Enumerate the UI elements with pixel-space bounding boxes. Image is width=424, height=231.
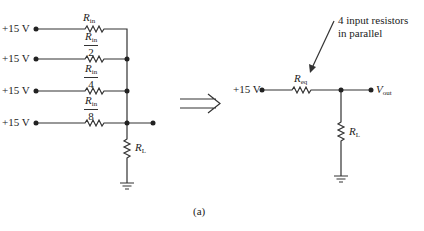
load-label-right: RL bbox=[349, 126, 360, 139]
annotation-text: 4 input resistorsin parallel bbox=[338, 14, 408, 40]
resistor-label-rin-over-4: Rin4 bbox=[84, 63, 98, 90]
load-resistor-left bbox=[124, 123, 130, 183]
ground-right bbox=[334, 176, 348, 182]
wire-1 bbox=[36, 26, 127, 123]
wire-right bbox=[262, 87, 371, 93]
annotation-arrowhead bbox=[309, 64, 316, 73]
resistor-label-rin-over-2: Rin2 bbox=[84, 31, 98, 58]
resistor-label-rin: Rin bbox=[83, 12, 95, 25]
source-label-right: +15 V bbox=[233, 84, 261, 95]
wire-2 bbox=[36, 56, 127, 62]
load-resistor-right bbox=[338, 90, 344, 176]
source-label-2: +15 V bbox=[2, 53, 30, 64]
source-label-1: +15 V bbox=[2, 23, 30, 34]
transform-arrow bbox=[180, 94, 220, 113]
resistor-label-rin-over-8: Rin8 bbox=[84, 95, 98, 122]
ground-left bbox=[120, 183, 134, 189]
source-label-3: +15 V bbox=[2, 85, 30, 96]
wire-3 bbox=[36, 88, 127, 94]
annotation-arrow-line bbox=[312, 21, 334, 68]
load-label-left: RL bbox=[135, 142, 146, 155]
source-label-4: +15 V bbox=[2, 117, 30, 128]
output-label: Vout bbox=[376, 84, 392, 97]
figure-caption: (a) bbox=[193, 206, 205, 217]
equivalent-resistor-label: Req bbox=[294, 73, 307, 86]
